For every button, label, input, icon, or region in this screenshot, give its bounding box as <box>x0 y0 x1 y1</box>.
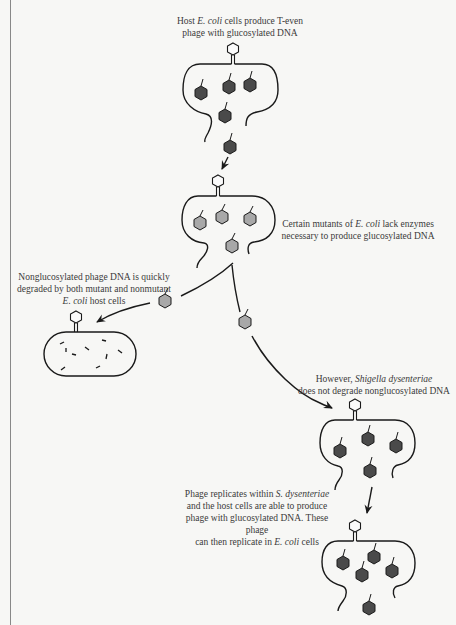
caption-replicates: Phage replicates within S. dysenteriae a… <box>176 488 338 548</box>
glucosylated-phage-icon <box>364 457 376 478</box>
glucosylated-phage-icon <box>334 437 346 458</box>
nonglucosylated-phage-icon <box>216 204 228 224</box>
infecting-phage-icon <box>71 311 82 332</box>
infecting-phage-icon <box>350 399 361 420</box>
cell-ecoli-degrading <box>44 311 136 376</box>
cell-mutant-ecoli <box>182 175 275 268</box>
glucosylated-phage-icon <box>195 79 207 100</box>
glucosylated-phage-icon <box>244 71 256 92</box>
nonglucosylated-phage-icon <box>194 210 206 230</box>
caption-host-ecoli: Host E. coli cells produce T-even phage … <box>150 15 330 39</box>
glucosylated-phage-icon <box>356 561 368 582</box>
degraded-dna-fragments-icon <box>60 340 122 370</box>
nonglucosylated-phage-icon <box>244 206 256 226</box>
nonglucosylated-phage-icon <box>226 233 238 253</box>
glucosylated-phage-icon <box>390 432 402 453</box>
infecting-phage-icon <box>350 520 361 541</box>
nonglucosylated-phage-icon <box>239 309 251 329</box>
glucosylated-phage-icon <box>223 73 235 94</box>
infecting-phage-icon <box>228 43 239 64</box>
caption-mutant-ecoli: Certain mutants of E. coli lack enzymes … <box>278 218 438 242</box>
glucosylated-phage-icon <box>386 557 398 578</box>
glucosylated-phage-icon <box>362 425 374 446</box>
caption-shigella: However, Shigella dysenteriae does not d… <box>292 373 456 397</box>
infecting-phage-icon <box>213 175 224 196</box>
released-phage-icon <box>363 594 375 615</box>
glucosylated-phage-icon <box>219 102 231 123</box>
released-phage-icon <box>224 133 236 154</box>
caption-degraded: Nonglucosylated phage DNA is quickly deg… <box>14 271 174 307</box>
cell-host-ecoli <box>183 43 278 169</box>
glucosylated-phage-icon <box>368 543 380 564</box>
glucosylated-phage-icon <box>337 549 349 570</box>
